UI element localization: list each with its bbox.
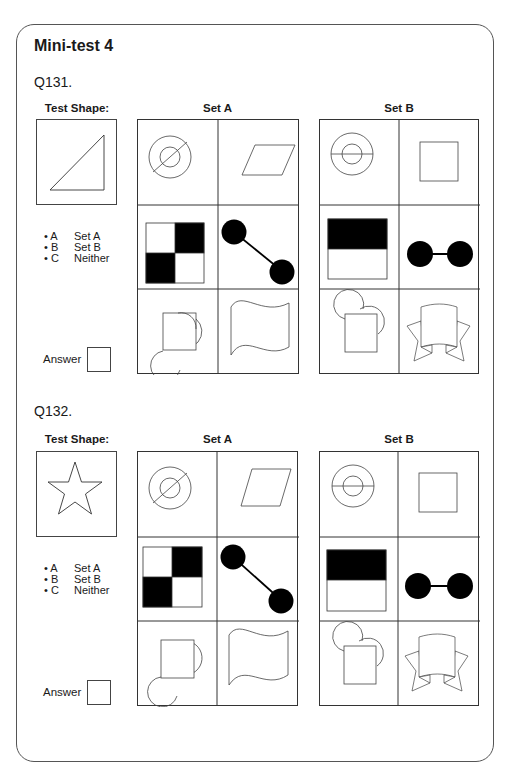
parallelogram-icon: [241, 469, 291, 506]
concentric-circles-horizontal-icon: [332, 465, 374, 507]
test-shape-box: [36, 451, 117, 537]
set-b-grid: [319, 451, 480, 707]
set-a-heading: Set A: [137, 433, 298, 445]
question-label-q131: Q131.: [34, 74, 72, 90]
concentric-circles-diagonal-icon: [149, 467, 191, 509]
option-c[interactable]: • CNeither: [44, 253, 109, 264]
option-c[interactable]: • CNeither: [44, 585, 109, 596]
right-triangle-icon: [37, 120, 116, 204]
answer-options: • ASet A • BSet B • CNeither: [44, 231, 109, 264]
linked-circles-diagonal-icon: [221, 545, 294, 614]
answer-options: • ASet A • BSet B • CNeither: [44, 563, 109, 596]
checkerboard-icon: [146, 223, 204, 283]
linked-circles-horizontal-icon: [407, 241, 473, 267]
set-b-heading: Set B: [319, 433, 479, 445]
square-icon: [420, 142, 458, 181]
concentric-circles-horizontal-icon: [331, 133, 373, 175]
star-icon: [37, 452, 116, 536]
set-a-heading: Set A: [137, 102, 298, 114]
test-shape-box: [36, 119, 117, 205]
linked-circles-horizontal-icon: [405, 573, 473, 599]
half-black-rectangle-icon: [328, 219, 387, 279]
wavy-flag-icon: [231, 301, 289, 355]
checkerboard-icon: [143, 547, 202, 607]
page-title: Mini-test 4: [34, 37, 113, 55]
parallelogram-icon: [242, 145, 295, 175]
answer-input[interactable]: [87, 680, 111, 705]
half-black-rectangle-icon: [327, 550, 386, 611]
ribbon-banner-icon: [405, 634, 468, 691]
set-a-grid: [137, 451, 299, 707]
square-two-circles-top-icon: [333, 621, 384, 684]
set-b-grid: [319, 119, 480, 375]
set-b-heading: Set B: [319, 102, 479, 114]
answer-input[interactable]: [87, 347, 111, 372]
square-two-circles-icon: [151, 313, 202, 375]
concentric-circles-diagonal-icon: [149, 136, 191, 178]
test-shape-heading: Test Shape:: [36, 102, 118, 114]
set-a-grid: [137, 119, 299, 375]
ribbon-banner-icon: [407, 304, 470, 361]
linked-circles-diagonal-icon: [222, 220, 295, 285]
square-icon: [419, 473, 457, 512]
question-label-q132: Q132.: [34, 403, 72, 419]
wavy-flag-icon: [229, 629, 288, 685]
square-two-circles-top-icon: [334, 289, 385, 352]
square-two-circles-icon: [148, 640, 202, 707]
test-shape-heading: Test Shape:: [36, 433, 118, 445]
answer-label: Answer: [43, 686, 81, 698]
answer-label: Answer: [43, 353, 81, 365]
